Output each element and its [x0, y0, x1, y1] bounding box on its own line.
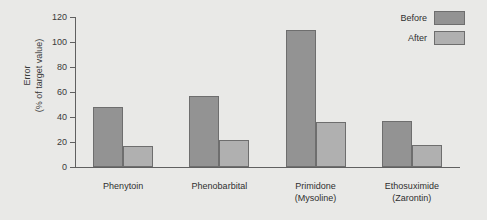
y-tick-mark [70, 117, 75, 118]
y-axis-title-line1: Error [22, 66, 33, 86]
x-axis-label-line: Phenytoin [75, 180, 171, 192]
x-axis-line [75, 167, 460, 168]
y-axis-line [75, 17, 76, 168]
x-axis-label-0: Phenytoin [75, 180, 171, 192]
x-axis-label-line: (Zarontin) [364, 192, 460, 204]
y-tick-label: 0 [62, 163, 67, 172]
y-tick-label: 40 [57, 113, 67, 122]
bar-after-0 [123, 146, 153, 167]
bar-before-1 [189, 96, 219, 167]
bar-after-3 [412, 145, 442, 168]
bar-before-0 [93, 107, 123, 167]
y-axis-title-line2: (% of target value) [34, 39, 45, 113]
bar-after-2 [316, 122, 346, 167]
y-tick-mark [70, 167, 75, 168]
x-axis-label-line: (Mysoline) [268, 192, 364, 204]
x-axis-label-3: Ethosuximide(Zarontin) [364, 180, 460, 204]
x-axis-label-line: Ethosuximide [364, 180, 460, 192]
legend-label: After [408, 34, 427, 43]
legend-swatch [434, 11, 465, 25]
y-tick-label: 20 [57, 138, 67, 147]
bar-before-2 [286, 30, 316, 168]
legend-swatch [434, 31, 465, 45]
x-axis-label-line: Phenobarbital [171, 180, 267, 192]
y-tick-mark [70, 67, 75, 68]
bar-before-3 [382, 121, 412, 167]
y-tick-label: 80 [57, 63, 67, 72]
bar-after-1 [219, 140, 249, 168]
x-axis-label-line: Primidone [268, 180, 364, 192]
x-axis-label-1: Phenobarbital [171, 180, 267, 192]
y-tick-label: 120 [52, 13, 67, 22]
bar-chart-figure: Error (% of target value) 02040608010012… [0, 0, 487, 220]
y-tick-label: 60 [57, 88, 67, 97]
legend-item-before: Before [400, 11, 465, 25]
y-tick-label: 100 [52, 38, 67, 47]
legend-label: Before [400, 14, 427, 23]
legend-item-after: After [400, 31, 465, 45]
y-tick-mark [70, 17, 75, 18]
y-tick-mark [70, 42, 75, 43]
x-axis-label-2: Primidone(Mysoline) [268, 180, 364, 204]
y-tick-mark [70, 92, 75, 93]
legend: BeforeAfter [400, 11, 465, 45]
y-axis-title: Error (% of target value) [18, 0, 48, 151]
y-tick-mark [70, 142, 75, 143]
